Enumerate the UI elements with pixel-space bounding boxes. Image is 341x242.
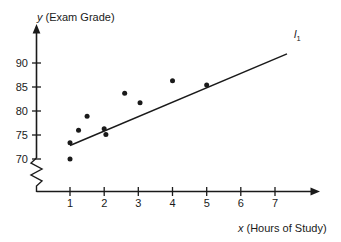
x-axis-title: x(Hours of Study): [237, 222, 327, 234]
data-point: [68, 157, 73, 162]
x-tick-label-4: 4: [169, 197, 175, 209]
x-tick-label-1: 1: [67, 197, 73, 209]
trend-line-label-subscript: 1: [296, 34, 300, 43]
x-tick-label-5: 5: [204, 197, 210, 209]
y-tick-label-85: 85: [16, 81, 28, 93]
data-point: [103, 132, 108, 137]
y-axis-title-text: (Exam Grade): [46, 11, 115, 23]
data-points-group: [68, 78, 210, 161]
x-tick-label-3: 3: [135, 197, 141, 209]
y-axis-break-icon: [31, 158, 42, 192]
y-tick-label-90: 90: [16, 57, 28, 69]
data-point: [68, 140, 73, 145]
x-axis-title-text: (Hours of Study): [247, 222, 327, 234]
data-point: [76, 128, 81, 133]
data-point: [170, 78, 175, 83]
plot-canvas: y(Exam Grade) 90 85 80 75 70: [0, 0, 341, 242]
trend-line-label: l1: [294, 28, 301, 43]
scatter-plot-figure: y(Exam Grade) 90 85 80 75 70: [0, 0, 341, 242]
x-axis-arrow-icon: [311, 188, 321, 196]
y-tick-label-75: 75: [16, 129, 28, 141]
x-axis-title-variable: x: [237, 222, 244, 234]
data-point: [138, 100, 143, 105]
data-point: [102, 126, 107, 131]
data-point: [122, 91, 127, 96]
data-point: [85, 114, 90, 119]
y-tick-label-80: 80: [16, 105, 28, 117]
data-point: [204, 83, 209, 88]
trend-line-l1: [70, 54, 287, 146]
y-axis-title: y(Exam Grade): [36, 11, 115, 23]
y-axis-tick-labels: 90 85 80 75 70: [16, 57, 28, 165]
y-axis-title-variable: y: [36, 11, 44, 23]
x-axis-tick-labels: 1 2 3 4 5 6 7: [67, 197, 278, 209]
x-tick-label-2: 2: [101, 197, 107, 209]
x-tick-label-6: 6: [238, 197, 244, 209]
y-tick-label-70: 70: [16, 153, 28, 165]
y-axis-arrow-icon: [33, 24, 41, 34]
x-tick-label-7: 7: [272, 197, 278, 209]
